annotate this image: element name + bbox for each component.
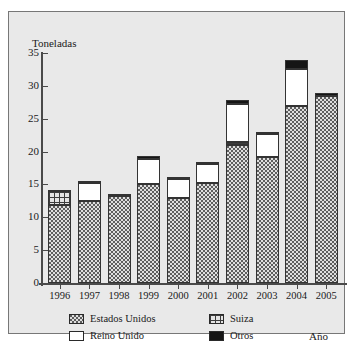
- bar-segment-otros: [226, 100, 249, 103]
- bar-segment-estados-unidos: [226, 145, 249, 283]
- y-tick-label: 35: [9, 47, 39, 58]
- legend-item-suiza: Suiza: [209, 313, 329, 324]
- bar-segment-otros: [137, 156, 160, 159]
- y-tick: [43, 53, 48, 54]
- y-tick: [43, 184, 48, 185]
- legend-item-estados-unidos: Estados Unidos: [69, 313, 209, 324]
- legend-label: Suiza: [230, 313, 253, 324]
- y-tick-label: 0: [9, 277, 39, 288]
- bar-segment-otros: [256, 132, 279, 135]
- y-tick-label-text: 20: [13, 146, 39, 157]
- legend-item-reino-unido: Reino Unido: [69, 330, 209, 341]
- grid-swatch-icon: [209, 314, 224, 324]
- x-tick-label-2005: 2005: [309, 290, 343, 301]
- bar-segment-otros: [196, 162, 219, 164]
- bar-segment-estados-unidos: [196, 183, 219, 283]
- legend-item-otros: Otros: [209, 330, 329, 341]
- bar-segment-estados-unidos: [78, 201, 101, 283]
- bar-segment-reino-unido: [196, 164, 219, 183]
- bar-segment-suiza: [48, 191, 71, 205]
- bar-2000: [167, 53, 190, 283]
- bar-segment-otros: [167, 177, 190, 180]
- y-tick-label: 10: [9, 211, 39, 222]
- x-tick: [60, 285, 61, 289]
- bar-segment-otros: [108, 194, 131, 196]
- bar-1996: [48, 53, 71, 283]
- bar-segment-otros: [285, 60, 308, 70]
- legend-label: Reino Unido: [90, 330, 144, 341]
- y-tick: [43, 119, 48, 120]
- bar-segment-estados-unidos: [315, 96, 338, 283]
- x-tick: [208, 285, 209, 289]
- bar-segment-estados-unidos: [108, 196, 131, 283]
- bar-segment-reino-unido: [167, 179, 190, 198]
- y-tick-label-text: 15: [13, 178, 39, 189]
- bar-segment-reino-unido: [256, 134, 279, 157]
- bar-segment-otros: [48, 190, 71, 192]
- y-tick-label-text: 0: [13, 277, 39, 288]
- y-tick-label-text: 25: [13, 113, 39, 124]
- y-tick-label: 5: [9, 244, 39, 255]
- x-tick: [178, 285, 179, 289]
- bar-1998: [108, 53, 131, 283]
- y-tick-label: 30: [9, 80, 39, 91]
- legend-row: Estados Unidos Suiza: [69, 310, 334, 327]
- bar-segment-estados-unidos: [48, 205, 71, 283]
- y-tick: [43, 283, 48, 284]
- bar-segment-suiza: [226, 142, 249, 145]
- bar-segment-otros: [315, 93, 338, 96]
- x-tick: [149, 285, 150, 289]
- y-tick: [43, 217, 48, 218]
- chart-panel: Toneladas Año 05101520253035 19961997199…: [8, 11, 345, 334]
- white-swatch-icon: [69, 331, 84, 341]
- chart-legend: Estados Unidos Suiza Reino Unido Otros: [69, 310, 334, 344]
- bar-2001: [196, 53, 219, 283]
- y-tick-label-text: 35: [13, 47, 39, 58]
- y-tick-label-text: 5: [13, 244, 39, 255]
- bar-segment-otros: [78, 181, 101, 183]
- x-tick: [267, 285, 268, 289]
- x-tick: [326, 285, 327, 289]
- bar-1999: [137, 53, 160, 283]
- bar-segment-estados-unidos: [256, 157, 279, 283]
- bar-segment-estados-unidos: [137, 184, 160, 283]
- bar-2003: [256, 53, 279, 283]
- legend-label: Estados Unidos: [90, 313, 156, 324]
- bar-segment-reino-unido: [226, 104, 249, 142]
- chart-figure: Toneladas Año 05101520253035 19961997199…: [0, 0, 353, 345]
- x-axis-line: [39, 283, 347, 285]
- dotted-swatch-icon: [69, 314, 84, 324]
- bar-segment-estados-unidos: [167, 198, 190, 283]
- y-tick: [43, 86, 48, 87]
- bar-segment-reino-unido: [285, 69, 308, 105]
- y-tick-label: 20: [9, 146, 39, 157]
- bar-segment-reino-unido: [137, 159, 160, 183]
- bar-2005: [315, 53, 338, 283]
- bar-1997: [78, 53, 101, 283]
- x-tick: [297, 285, 298, 289]
- y-tick-label: 15: [9, 178, 39, 189]
- y-tick-label: 25: [9, 113, 39, 124]
- black-swatch-icon: [209, 331, 224, 341]
- legend-row: Reino Unido Otros: [69, 327, 334, 344]
- bar-2002: [226, 53, 249, 283]
- y-tick-label-text: 30: [13, 80, 39, 91]
- bar-2004: [285, 53, 308, 283]
- legend-label: Otros: [230, 330, 253, 341]
- y-tick-label-text: 10: [13, 211, 39, 222]
- y-tick: [43, 250, 48, 251]
- y-tick: [43, 152, 48, 153]
- x-tick: [89, 285, 90, 289]
- x-tick: [119, 285, 120, 289]
- bar-segment-reino-unido: [78, 183, 101, 201]
- bar-segment-estados-unidos: [285, 106, 308, 283]
- x-tick: [237, 285, 238, 289]
